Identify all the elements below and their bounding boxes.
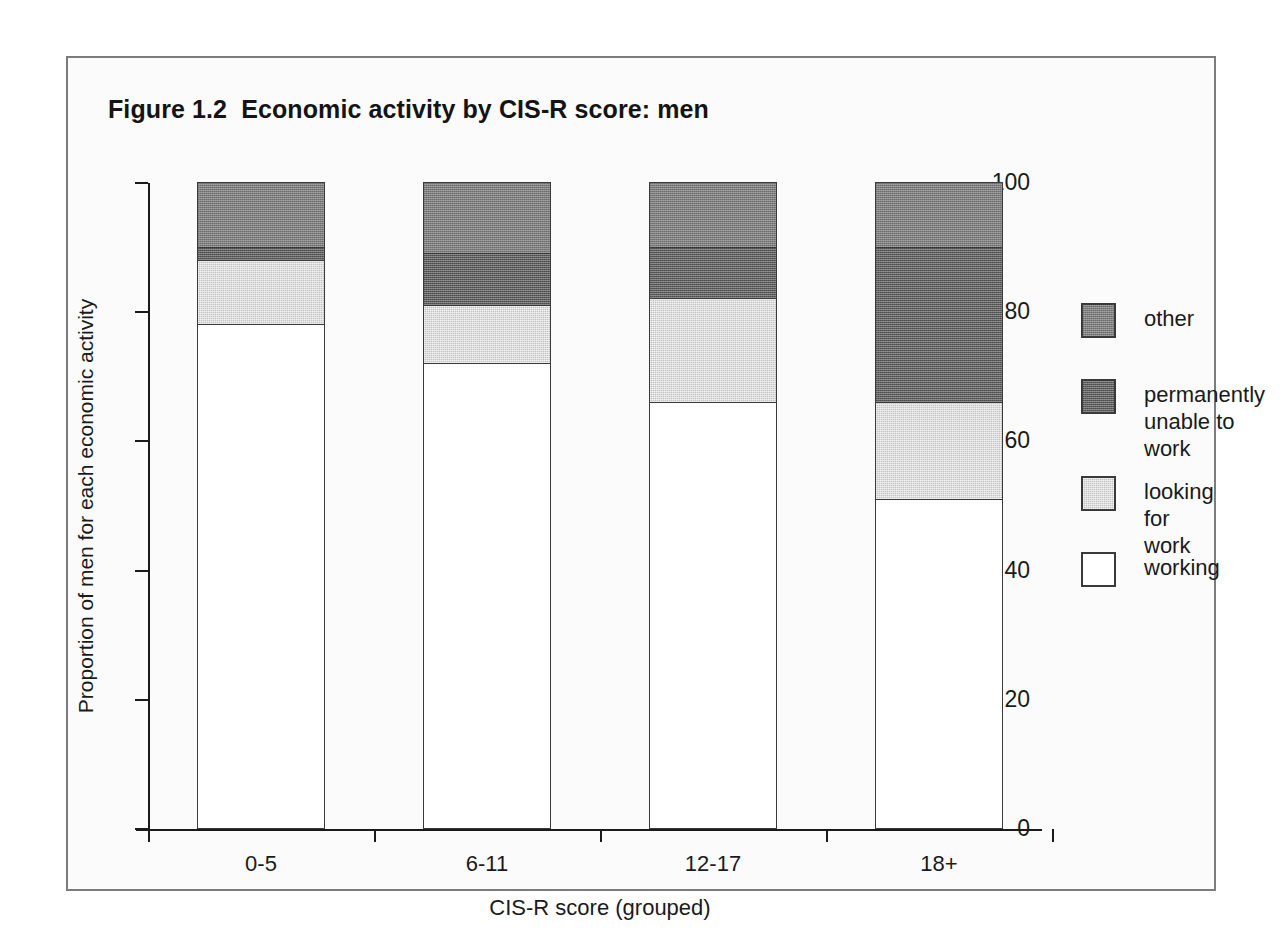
bar-segment-permanently-unable-to-work[interactable] <box>423 253 551 306</box>
bar-segment-working[interactable] <box>423 363 551 829</box>
x-axis-tick <box>600 829 602 842</box>
x-axis-title: CIS-R score (grouped) <box>148 895 1052 921</box>
y-axis-tick <box>135 828 148 830</box>
x-axis-tick-label: 12-17 <box>685 851 741 877</box>
y-axis-tick-label: 60 <box>1004 427 1030 454</box>
y-axis-line <box>148 183 150 830</box>
bar-segment-other[interactable] <box>423 182 551 254</box>
figure-frame: Figure 1.2 Economic activity by CIS-R sc… <box>66 56 1216 891</box>
legend-item[interactable]: other <box>1081 303 1194 338</box>
legend-item[interactable]: looking for work <box>1081 476 1214 559</box>
y-axis-tick-label: 40 <box>1004 557 1030 584</box>
y-axis-tick-label: 80 <box>1004 298 1030 325</box>
x-axis-tick-label: 0-5 <box>245 851 277 877</box>
x-axis-tick <box>1052 829 1054 842</box>
y-axis-tick-label: 20 <box>1004 686 1030 713</box>
y-axis-tick <box>135 699 148 701</box>
y-axis-tick <box>135 570 148 572</box>
stacked-bar[interactable] <box>423 183 551 829</box>
bar-segment-other[interactable] <box>197 182 325 248</box>
bar-segment-permanently-unable-to-work[interactable] <box>875 247 1003 403</box>
bar-segment-working[interactable] <box>197 324 325 829</box>
legend-item[interactable]: working <box>1081 552 1220 587</box>
bar-segment-working[interactable] <box>875 499 1003 829</box>
bar-segment-other[interactable] <box>875 182 1003 248</box>
x-axis-tick <box>826 829 828 842</box>
x-axis-tick <box>148 829 150 842</box>
x-axis-tick-label: 6-11 <box>466 851 508 877</box>
bar-segment-looking-for-work[interactable] <box>875 402 1003 500</box>
bar-segment-other[interactable] <box>649 182 777 248</box>
y-axis-tick <box>135 311 148 313</box>
legend-label: other <box>1144 305 1194 332</box>
bar-segment-working[interactable] <box>649 402 777 829</box>
stacked-bar[interactable] <box>875 183 1003 829</box>
plot-area: 020406080100 0-56-1112-1718+ Proportion … <box>148 183 1052 829</box>
bar-segment-looking-for-work[interactable] <box>423 305 551 364</box>
y-axis-tick <box>135 182 148 184</box>
legend-swatch-icon <box>1081 379 1116 414</box>
legend-label: looking for work <box>1144 478 1214 559</box>
chart-title: Figure 1.2 Economic activity by CIS-R sc… <box>108 95 709 124</box>
bar-segment-looking-for-work[interactable] <box>649 298 777 402</box>
y-axis-tick <box>135 440 148 442</box>
stacked-bar[interactable] <box>197 183 325 829</box>
y-axis-tick-label: 0 <box>1017 815 1030 842</box>
legend-swatch-icon <box>1081 476 1116 511</box>
legend-item[interactable]: permanently unable to work <box>1081 379 1265 462</box>
legend-label: permanently unable to work <box>1144 381 1265 462</box>
bar-segment-permanently-unable-to-work[interactable] <box>197 247 325 261</box>
stacked-bar[interactable] <box>649 183 777 829</box>
x-axis-line <box>136 829 1042 831</box>
x-axis-tick <box>374 829 376 842</box>
bar-segment-permanently-unable-to-work[interactable] <box>649 247 777 300</box>
y-axis-title: Proportion of men for each economic acti… <box>74 299 98 713</box>
legend-swatch-icon <box>1081 552 1116 587</box>
x-axis-tick-label: 18+ <box>920 851 957 877</box>
bar-segment-looking-for-work[interactable] <box>197 260 325 326</box>
legend-label: working <box>1144 554 1220 581</box>
legend-swatch-icon <box>1081 303 1116 338</box>
